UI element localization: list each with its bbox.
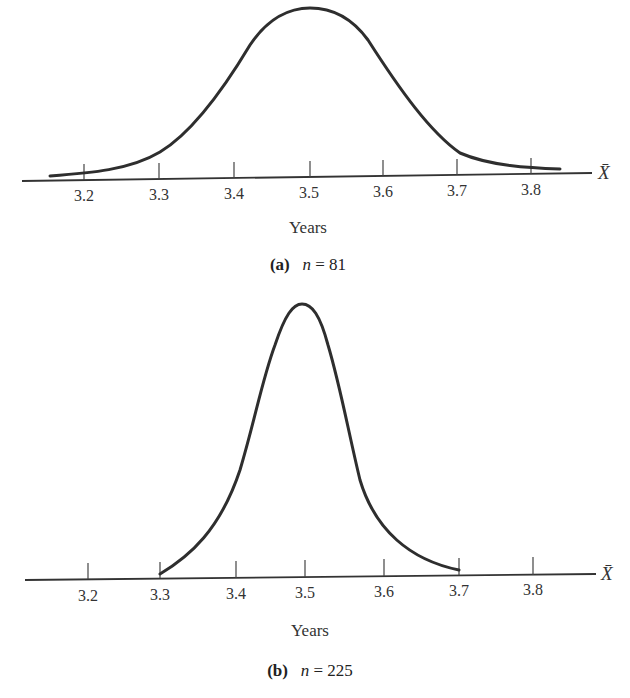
- svg-text:3.8: 3.8: [523, 581, 543, 598]
- x-axis-line-b: [25, 574, 596, 580]
- svg-text:3.7: 3.7: [449, 582, 469, 599]
- svg-text:3.3: 3.3: [150, 586, 170, 603]
- x-axis-label-b: Years: [291, 621, 329, 640]
- svg-text:3.4: 3.4: [224, 185, 244, 202]
- panel-a: 3.2 3.3 3.4 3.5 3.6 3.7 3.8 X̄ Years (a)…: [22, 8, 611, 274]
- x-axis-line-a: [22, 173, 592, 181]
- panel-b: 3.2 3.3 3.4 3.5 3.6 3.7 3.8 X̄ Years (b)…: [25, 304, 614, 680]
- x-axis-label-a: Years: [289, 218, 327, 237]
- svg-text:3.2: 3.2: [74, 187, 94, 204]
- svg-text:3.5: 3.5: [295, 584, 315, 601]
- svg-text:3.2: 3.2: [78, 587, 98, 604]
- distribution-curve-a: [50, 8, 560, 176]
- tick-labels-b: 3.2 3.3 3.4 3.5 3.6 3.7 3.8: [78, 581, 543, 604]
- svg-text:3.3: 3.3: [149, 186, 169, 203]
- distribution-curve-b: [160, 304, 459, 574]
- figure-canvas: 3.2 3.3 3.4 3.5 3.6 3.7 3.8 X̄ Years (a)…: [0, 0, 630, 698]
- axis-variable-a: X̄: [597, 162, 611, 183]
- tick-labels-a: 3.2 3.3 3.4 3.5 3.6 3.7 3.8: [74, 181, 541, 204]
- svg-text:3.6: 3.6: [374, 583, 394, 600]
- axis-variable-b: X̄: [600, 563, 614, 584]
- svg-text:3.6: 3.6: [373, 183, 393, 200]
- svg-text:3.8: 3.8: [521, 181, 541, 198]
- caption-a: (a) n = 81: [270, 255, 346, 274]
- caption-b: (b) n = 225: [267, 661, 353, 680]
- svg-text:3.7: 3.7: [447, 182, 467, 199]
- svg-text:3.5: 3.5: [299, 184, 319, 201]
- svg-text:3.4: 3.4: [226, 585, 246, 602]
